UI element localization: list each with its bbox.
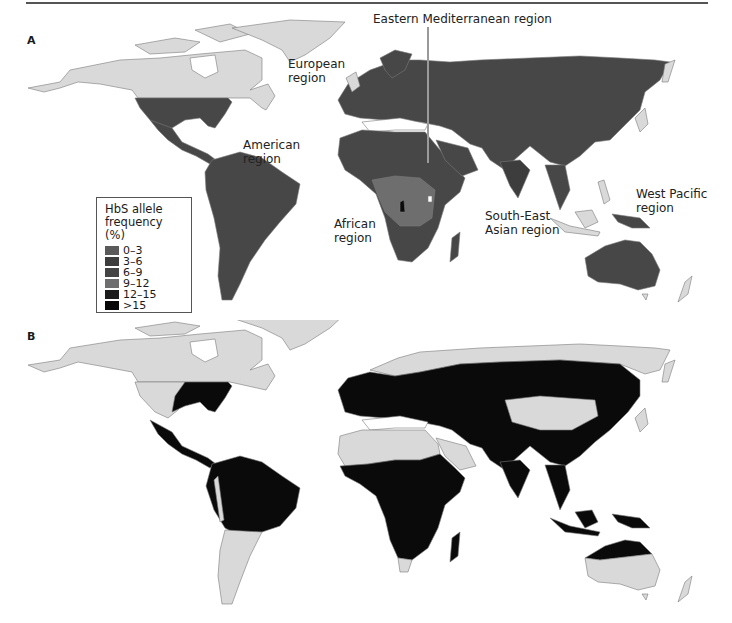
eastern-mediterranean-pointer [427,27,429,163]
region-label-line1: American [243,138,300,152]
label-west-pacific-region: West Pacific region [636,187,707,215]
legend-item-label: >15 [123,300,146,311]
borneo [575,210,598,228]
region-label-line1: African [334,217,376,231]
south-america [205,152,300,300]
legend-title: HbS allele frequency (%) [105,203,183,242]
label-american-region: American region [243,138,300,166]
legend-item-0-3: 0–3 [105,245,183,256]
legend-swatch [105,268,119,277]
legend-swatch [105,290,119,299]
region-label-text: Eastern Mediterranean region [373,12,552,26]
region-label-line2: region [334,231,376,245]
africa-malaria [340,454,465,560]
new-guinea [612,214,650,228]
central-america [150,120,216,164]
legend-swatch [105,246,119,255]
new-zealand [678,276,692,302]
hbs-frequency-legend: HbS allele frequency (%) 0–3 3–6 6–9 9–1… [96,197,192,313]
legend-item-over-15: >15 [105,300,183,311]
region-label-line2: region [243,152,300,166]
legend-item-3-6: 3–6 [105,256,183,267]
region-label-line2: region [288,71,345,85]
legend-swatch [105,279,119,288]
legend-title-line2: frequency (%) [105,216,183,242]
madagascar [450,232,460,262]
region-label-line2: region [636,201,707,215]
australia [585,240,660,290]
region-label-line2: Asian region [485,223,560,237]
region-label-line1: West Pacific [636,187,707,201]
usa [135,98,232,130]
india [500,160,530,198]
label-african-region: African region [334,217,376,245]
region-label-line1: European [288,57,345,71]
label-european-region: European region [288,57,345,85]
label-south-east-asian-region: South-East Asian region [485,209,560,237]
legend-swatch [105,301,119,310]
label-eastern-mediterranean: Eastern Mediterranean region [373,12,552,26]
region-label-line1: South-East [485,209,560,223]
legend-swatch [105,257,119,266]
map-b-malaria-distribution [0,320,732,623]
